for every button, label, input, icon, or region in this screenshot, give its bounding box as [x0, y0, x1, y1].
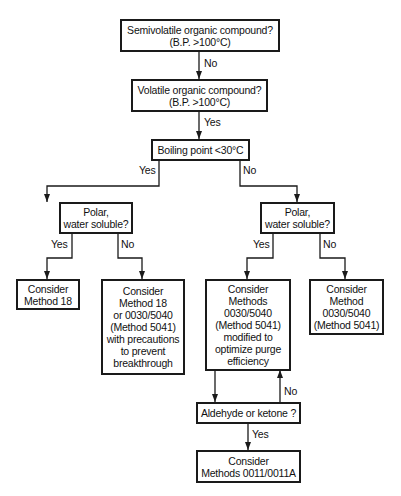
node-method18: Consider Method 18 [16, 279, 80, 310]
node-method18-text: Consider Method 18 [24, 283, 72, 307]
node-polar-right: Polar, water soluble? [260, 202, 335, 234]
node-aldehyde-text: Aldehyde or ketone ? [201, 407, 296, 419]
node-polar-left-text: Polar, water soluble? [64, 206, 129, 230]
node-methods-modified: Consider Methods 0030/5040 (Method 5041)… [205, 279, 291, 371]
node-methods-modified-text: Consider Methods 0030/5040 (Method 5041)… [215, 283, 281, 367]
node-aldehyde: Aldehyde or ketone ? [196, 402, 301, 424]
node-method18-or-text: Consider Method 18 or 0030/5040 (Method … [107, 285, 180, 369]
node-boiling-point: Boiling point <30°C [151, 139, 250, 161]
label-aldehyde-yes: Yes [252, 428, 269, 440]
label-boiling-yes: Yes [139, 164, 156, 176]
node-methods-0011: Consider Methods 0011/0011A [196, 450, 301, 483]
node-method-0030-text: Consider Method 0030/5040 (Method 5041) [314, 283, 380, 331]
node-polar-left: Polar, water soluble? [59, 202, 133, 234]
node-semivolatile-text: Semivolatile organic compound? (B.P. >10… [127, 24, 273, 48]
node-boiling-point-text: Boiling point <30°C [158, 144, 244, 156]
label-aldehyde-no: No [284, 385, 297, 397]
node-semivolatile: Semivolatile organic compound? (B.P. >10… [120, 19, 280, 52]
label-boiling-no: No [243, 164, 256, 176]
node-method-0030: Consider Method 0030/5040 (Method 5041) [309, 279, 384, 335]
label-polar-left-yes: Yes [51, 238, 68, 250]
label-polar-left-no: No [121, 238, 134, 250]
label-volatile-yes: Yes [204, 116, 221, 128]
label-polar-right-yes: Yes [253, 238, 270, 250]
node-polar-right-text: Polar, water soluble? [265, 206, 330, 230]
node-method18-or: Consider Method 18 or 0030/5040 (Method … [101, 279, 185, 375]
node-methods-0011-text: Consider Methods 0011/0011A [201, 455, 296, 479]
node-volatile: Volatile organic compound? (B.P. >100°C) [131, 79, 268, 112]
label-semivolatile-no: No [204, 57, 217, 69]
label-polar-right-no: No [323, 238, 336, 250]
node-volatile-text: Volatile organic compound? (B.P. >100°C) [138, 84, 262, 108]
